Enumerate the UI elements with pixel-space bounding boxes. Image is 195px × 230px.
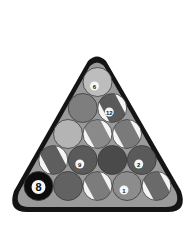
ball-r2c0	[54, 120, 83, 149]
ball-1: 1	[113, 172, 142, 201]
ball-number: 12	[106, 110, 113, 116]
ball-r4c1	[54, 172, 83, 201]
ball-2: 2	[127, 146, 156, 175]
ball-r1c0	[68, 94, 97, 123]
ball-r3c2	[98, 146, 127, 175]
ball-9: 9	[68, 146, 97, 175]
ball-number: 8	[35, 181, 41, 193]
ball-8: 8	[24, 172, 53, 201]
ball-6: 6	[83, 68, 112, 97]
billiard-rack-illustration: 6129281	[0, 0, 195, 230]
